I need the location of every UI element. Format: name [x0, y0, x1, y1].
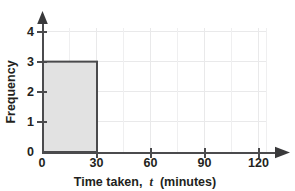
x-tick-label-120: 120 — [248, 156, 269, 170]
x-axis-title-variable: t — [149, 175, 153, 189]
bar-series — [43, 62, 97, 152]
svg-text:Time taken, t: Time taken, t (minutes) — [74, 175, 216, 189]
x-tick-labels: 0 30 60 90 120 — [39, 156, 269, 170]
y-tick-label-1: 1 — [27, 115, 34, 129]
y-tick-labels: 4 3 2 1 0 — [27, 25, 34, 159]
chart-canvas: 4 3 2 1 0 0 30 60 90 120 Frequency Time … — [0, 0, 295, 191]
x-tick-label-60: 60 — [144, 156, 158, 170]
vertical-gridlines — [70, 28, 267, 152]
y-tick-label-3: 3 — [27, 55, 34, 69]
x-axis-title-prefix: Time taken, — [74, 175, 143, 189]
x-axis-arrow-icon — [275, 147, 290, 158]
y-axis-title: Frequency — [4, 60, 18, 123]
y-tick-label-4: 4 — [27, 25, 34, 39]
y-tick-label-2: 2 — [27, 85, 34, 99]
x-tick-label-90: 90 — [198, 156, 212, 170]
y-axis-arrow-icon — [37, 11, 48, 24]
x-axis-title-suffix: (minutes) — [160, 175, 216, 189]
bar-0-30 — [43, 62, 97, 152]
y-tick-label-0: 0 — [27, 145, 34, 159]
x-axis-title: Time taken, t (minutes) — [74, 175, 216, 189]
x-tick-label-30: 30 — [90, 156, 104, 170]
histogram-chart: 4 3 2 1 0 0 30 60 90 120 Frequency Time … — [0, 0, 295, 191]
x-tick-label-0: 0 — [39, 156, 46, 170]
